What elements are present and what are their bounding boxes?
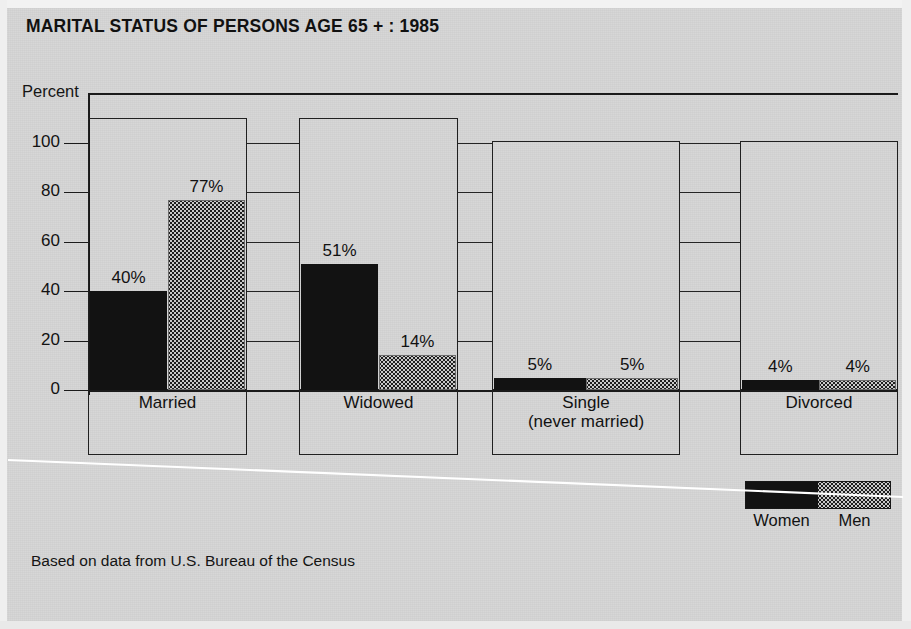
gridline-segment — [247, 291, 299, 292]
category-label: Single (never married) — [528, 393, 644, 431]
group-panel-single — [492, 141, 680, 390]
gridline-segment — [247, 242, 299, 243]
plot-top-rule — [88, 93, 898, 95]
bar-men-widowed — [379, 355, 457, 390]
category-label-box: Divorced — [740, 390, 898, 455]
gridline-segment — [680, 242, 740, 243]
bar-women-divorced — [742, 380, 819, 390]
y-tick-label: 20 — [14, 330, 60, 350]
value-label-men-single: 5% — [586, 355, 678, 375]
y-tick-label: 80 — [14, 181, 60, 201]
gridline-segment — [680, 192, 740, 193]
group-panel-divorced — [740, 141, 898, 390]
gridline-segment — [458, 242, 492, 243]
bar-women-widowed — [301, 264, 379, 390]
y-tick-label: 100 — [14, 132, 60, 152]
gridline-segment — [247, 341, 299, 342]
y-tick-mark — [64, 341, 88, 342]
value-label-men-widowed: 14% — [379, 332, 457, 352]
legend-label-women: Women — [745, 511, 818, 530]
bar-women-single — [494, 378, 586, 390]
gridline-segment — [458, 341, 492, 342]
y-tick-mark — [64, 192, 88, 193]
source-note: Based on data from U.S. Bureau of the Ce… — [31, 552, 355, 570]
legend-label-men: Men — [818, 511, 891, 530]
gridline-segment — [458, 291, 492, 292]
value-label-women-married: 40% — [90, 268, 168, 288]
gridline-segment — [680, 143, 740, 144]
category-label: Widowed — [344, 393, 414, 412]
y-tick-label: 40 — [14, 280, 60, 300]
value-label-men-married: 77% — [168, 177, 246, 197]
gridline-segment — [458, 192, 492, 193]
category-label-box: Single (never married) — [492, 390, 680, 455]
chart-canvas: MARITAL STATUS OF PERSONS AGE 65 + : 198… — [0, 0, 911, 629]
y-tick-mark — [64, 291, 88, 292]
y-tick-mark — [64, 143, 88, 144]
plot-area: Percent02040608010040%77%Married51%14%Wi… — [0, 0, 911, 629]
legend: Women Men — [745, 481, 891, 530]
gridline-segment — [458, 143, 492, 144]
category-label-box: Married — [88, 390, 247, 455]
y-tick-mark — [64, 390, 88, 391]
category-label-box: Widowed — [299, 390, 458, 455]
category-label: Divorced — [785, 393, 852, 412]
y-tick-mark — [64, 242, 88, 243]
legend-swatch-men — [818, 482, 890, 508]
category-label: Married — [139, 393, 197, 412]
bar-men-divorced — [819, 380, 896, 390]
gridline-segment — [680, 291, 740, 292]
gridline-segment — [247, 192, 299, 193]
value-label-men-divorced: 4% — [819, 357, 896, 377]
value-label-women-divorced: 4% — [742, 357, 819, 377]
y-axis-title: Percent — [22, 82, 79, 101]
bar-women-married — [90, 291, 168, 390]
y-tick-label: 60 — [14, 231, 60, 251]
gridline-segment — [680, 341, 740, 342]
value-label-women-widowed: 51% — [301, 241, 379, 261]
value-label-women-single: 5% — [494, 355, 586, 375]
y-tick-label: 0 — [14, 379, 60, 399]
bar-men-married — [168, 200, 246, 390]
gridline-segment — [247, 143, 299, 144]
bar-men-single — [586, 378, 678, 390]
legend-labels: Women Men — [745, 511, 891, 530]
legend-swatch-women — [746, 482, 818, 508]
legend-swatch — [745, 481, 891, 509]
